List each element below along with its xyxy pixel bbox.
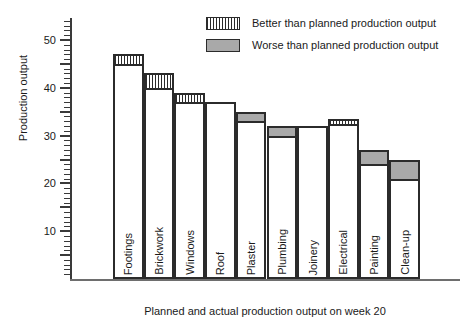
- bar-group[interactable]: Joinery: [297, 18, 328, 279]
- bar-category-label: Joinery: [307, 240, 319, 275]
- bar-category-label: Plaster: [245, 241, 257, 275]
- bar-group[interactable]: Electrical: [328, 18, 359, 279]
- bar-group[interactable]: Plumbing: [267, 18, 298, 279]
- bar-category-label: Roof: [214, 252, 226, 275]
- bar-group[interactable]: Plaster: [236, 18, 267, 279]
- bar-group[interactable]: Clean-up: [389, 18, 420, 279]
- bar-category-label: Clean-up: [399, 230, 411, 275]
- bar-group[interactable]: Roof: [205, 18, 236, 279]
- bar-better-segment[interactable]: [144, 73, 175, 89]
- bar-category-label: Windows: [184, 230, 196, 275]
- bar-group[interactable]: Windows: [174, 18, 205, 279]
- bar-group[interactable]: Painting: [359, 18, 390, 279]
- bar-category-label: Painting: [368, 235, 380, 275]
- bar-better-segment[interactable]: [328, 119, 359, 126]
- bar-group[interactable]: Brickwork: [144, 18, 175, 279]
- bar-worse-segment[interactable]: [359, 150, 390, 166]
- bar-category-label: Footings: [122, 233, 134, 275]
- x-axis-title: Planned and actual production output on …: [70, 305, 460, 317]
- bar-worse-segment[interactable]: [389, 160, 420, 181]
- x-axis-line: [70, 279, 460, 281]
- chart-plot-area: Better than planned production output Wo…: [0, 0, 472, 329]
- bar-better-segment[interactable]: [174, 93, 205, 105]
- bar-better-segment[interactable]: [113, 54, 144, 66]
- chart-screenshot: Better than planned production output Wo…: [0, 0, 472, 329]
- bar-worse-segment[interactable]: [267, 126, 298, 138]
- bar-group[interactable]: Footings: [113, 18, 144, 279]
- bar-category-label: Plumbing: [276, 229, 288, 275]
- bar-worse-segment[interactable]: [236, 112, 267, 124]
- bar-category-label: Electrical: [337, 230, 349, 275]
- bar-category-label: Brickwork: [153, 227, 165, 275]
